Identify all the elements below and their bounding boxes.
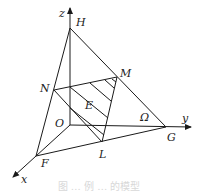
region-label-omega: Ω <box>139 111 149 124</box>
point-label-G: G <box>167 131 176 144</box>
point-label-F: F <box>40 157 49 170</box>
point-label-L: L <box>98 148 106 161</box>
point-label-N: N <box>39 82 50 95</box>
hatch-line <box>90 83 111 101</box>
hatch-line <box>112 79 116 82</box>
edge-NL <box>54 90 102 142</box>
hatch-line <box>105 80 114 88</box>
edge-NM <box>54 77 117 90</box>
hatch-line <box>70 108 104 135</box>
axis-label-z: z <box>58 7 65 20</box>
axis-label-y: y <box>181 112 189 125</box>
edge-ML <box>102 77 117 142</box>
point-label-H: H <box>75 16 86 29</box>
point-label-O: O <box>55 117 64 130</box>
figure-caption: 图 … 例 … 的模型 <box>0 178 198 193</box>
point-label-M: M <box>119 67 132 80</box>
edge-HG <box>70 28 166 127</box>
coordinate-diagram: z y x H M N E O Ω G L F <box>0 0 198 194</box>
point-label-E: E <box>84 99 93 112</box>
